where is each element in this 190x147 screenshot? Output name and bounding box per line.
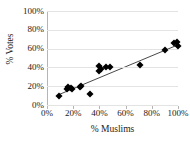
- y-axis-tick-label: 60%: [16, 44, 44, 53]
- y-axis-tick-labels: 0%20%40%60%80%100%: [11, 0, 44, 147]
- gridline: [47, 105, 178, 106]
- scatter-chart: % Votes 0%20%40%60%80%100% 0%20%40%60%80…: [0, 0, 190, 147]
- plot-area: [47, 11, 178, 105]
- x-axis-tick-label: 40%: [91, 109, 108, 118]
- gridline: [47, 49, 178, 50]
- x-axis-tick-label: 80%: [144, 109, 161, 118]
- gridline: [47, 30, 178, 31]
- y-axis-tick-label: 100%: [16, 7, 44, 16]
- x-axis-tick-mark: [152, 106, 153, 109]
- x-axis-tick-mark: [126, 106, 127, 109]
- x-axis-tick-mark: [47, 106, 48, 109]
- x-axis-tick-label: 0%: [41, 109, 53, 118]
- x-axis-tick-mark: [73, 106, 74, 109]
- gridline: [47, 11, 178, 12]
- x-axis-tick-mark: [99, 106, 100, 109]
- x-axis-tick-label: 20%: [65, 109, 82, 118]
- x-axis-tick-label: 100%: [168, 109, 189, 118]
- x-axis-title: % Muslims: [47, 124, 178, 134]
- x-axis-tick-label: 60%: [117, 109, 134, 118]
- y-axis-tick-label: 80%: [16, 25, 44, 34]
- x-axis-tick-labels: 0%20%40%60%80%100%: [0, 109, 190, 123]
- x-axis-tick-mark: [178, 106, 179, 109]
- y-axis-tick-label: 40%: [16, 63, 44, 72]
- y-axis-tick-label: 20%: [16, 82, 44, 91]
